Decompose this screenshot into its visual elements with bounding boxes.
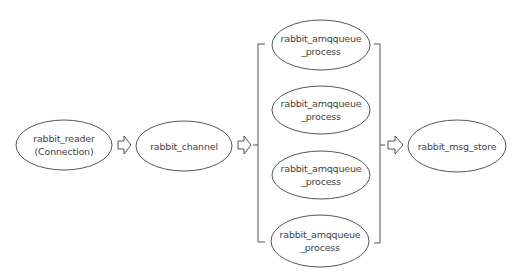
queue-name-line1: rabbit_amqqueue — [281, 97, 362, 110]
queue-name-line2: _process — [281, 110, 362, 123]
rabbit-channel-label: rabbit_channel — [150, 140, 218, 153]
queue-name-line2: _process — [280, 241, 361, 254]
rabbit-reader-subtitle: (Connection) — [33, 145, 94, 158]
right-bracket — [374, 44, 380, 243]
rabbit-channel-name: rabbit_channel — [150, 140, 218, 153]
amqqueue-process-label-2: rabbit_amqqueue _process — [281, 97, 362, 123]
hollow-right-arrow-icon — [118, 136, 131, 154]
amqqueue-process-label-4: rabbit_amqqueue _process — [280, 228, 361, 254]
hollow-right-arrow-icon — [238, 136, 251, 154]
queue-name-line1: rabbit_amqqueue — [280, 228, 361, 241]
queue-name-line1: rabbit_amqqueue — [281, 162, 362, 175]
queue-name-line2: _process — [281, 45, 362, 58]
rabbit-msg-store-label: rabbit_msg_store — [418, 140, 497, 153]
amqqueue-process-label-3: rabbit_amqqueue _process — [281, 162, 362, 188]
rabbit-reader-name: rabbit_reader — [33, 132, 94, 145]
queue-name-line1: rabbit_amqqueue — [281, 32, 362, 45]
hollow-right-arrow-icon — [388, 136, 403, 154]
rabbit-reader-label: rabbit_reader (Connection) — [33, 132, 94, 158]
queue-name-line2: _process — [281, 175, 362, 188]
amqqueue-process-label-1: rabbit_amqqueue _process — [281, 32, 362, 58]
left-bracket — [258, 44, 265, 242]
rabbit-msg-store-name: rabbit_msg_store — [418, 140, 497, 153]
